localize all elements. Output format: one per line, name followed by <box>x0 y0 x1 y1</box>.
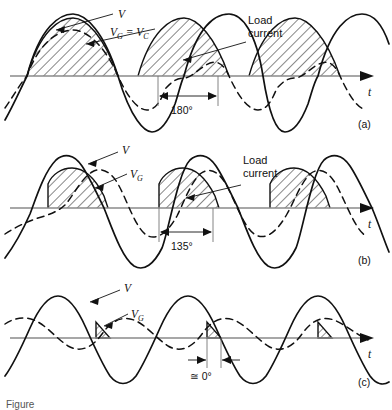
label-dimension-c: ≅ 0° <box>190 370 212 382</box>
label-load-current-b-line2: current <box>243 167 277 179</box>
label-t-axis-b: t <box>368 218 372 230</box>
label-vg-a: VG = VC <box>110 26 149 41</box>
dimension-b <box>159 208 213 242</box>
label-load-current-b-line1: Load <box>243 154 267 166</box>
label-t-axis-c: t <box>368 348 372 360</box>
label-v-c: V <box>124 282 133 294</box>
waveform-vg <box>5 318 368 349</box>
panel-a: V VG = VC Load current t 180° (a) <box>0 0 392 136</box>
label-panel-c: (c) <box>358 376 370 388</box>
label-dimension-a: 180° <box>171 104 193 116</box>
label-panel-a: (a) <box>358 118 371 130</box>
panel-c: V VG t ≅ 0° (c) <box>0 276 392 394</box>
label-vg-b: VG <box>130 168 143 183</box>
figure-caption: Figure <box>6 399 386 410</box>
label-v-a: V <box>118 8 127 20</box>
label-t-axis-a: t <box>368 86 372 98</box>
label-load-current-a-line2: current <box>248 27 282 39</box>
label-panel-b: (b) <box>358 254 371 266</box>
panel-b: V VG Load current t 135° (b) <box>0 136 392 276</box>
dimension-a <box>158 76 218 106</box>
label-dimension-b: 135° <box>171 240 193 252</box>
label-vg-c: VG <box>131 308 144 323</box>
label-load-current-a-line1: Load <box>248 14 272 26</box>
figure-phase-control-waveforms: V VG = VC Load current t 180° (a) <box>0 0 392 410</box>
label-v-b: V <box>122 144 131 156</box>
